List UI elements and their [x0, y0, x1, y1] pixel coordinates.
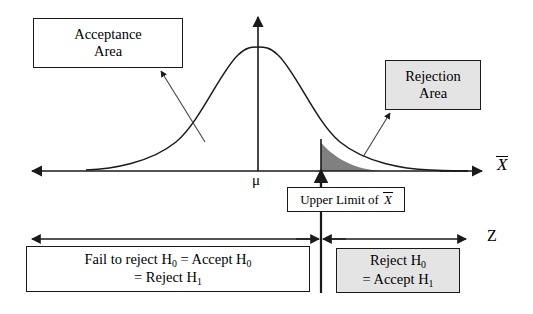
- upper-limit-callout: Upper Limit of X: [287, 187, 405, 212]
- reject-h0-line1: Reject H0: [370, 252, 426, 270]
- rejection-area-callout: Rejection Area: [385, 60, 481, 110]
- fail-to-reject-line1: Fail to reject H0 = Accept H0: [84, 251, 251, 269]
- fail-to-reject-line2: = Reject H1: [134, 269, 202, 287]
- fail-to-reject-text-c: = Reject H: [134, 269, 197, 285]
- rejection-area-line1: Rejection: [405, 68, 461, 85]
- acceptance-area-line1: Acceptance: [74, 26, 142, 43]
- fail-to-reject-text-b: = Accept H: [177, 251, 247, 267]
- rejection-area-line2: Area: [419, 85, 447, 102]
- fail-to-reject-text-a: Fail to reject H: [84, 251, 171, 267]
- z-axis-label: Z: [487, 227, 497, 245]
- fail-to-reject-h0-box: Fail to reject H0 = Accept H0 = Reject H…: [26, 246, 310, 292]
- upper-limit-xbar-symbol: X: [384, 192, 392, 207]
- reject-h0-text-b: = Accept H: [362, 271, 428, 287]
- reject-h0-sub-a: 0: [421, 259, 426, 270]
- reject-h0-line2: = Accept H1: [362, 271, 433, 289]
- x-axis-label-symbol: X: [497, 155, 507, 175]
- acceptance-area-callout: Acceptance Area: [33, 18, 183, 68]
- acceptance-leader-line: [161, 71, 205, 142]
- hypothesis-test-diagram: Acceptance Area Rejection Area Upper Lim…: [0, 0, 533, 314]
- reject-h0-sub-b: 1: [429, 277, 434, 288]
- rejection-leader-line: [363, 113, 390, 157]
- reject-h0-box: Reject H0 = Accept H1: [336, 248, 460, 293]
- fail-to-reject-sub-b: 0: [247, 257, 252, 268]
- acceptance-area-line2: Area: [94, 43, 122, 60]
- fail-to-reject-sub-c: 1: [197, 276, 202, 287]
- upper-limit-text: Upper Limit of: [300, 192, 379, 207]
- reject-h0-text-a: Reject H: [370, 252, 421, 268]
- x-axis-label: X: [497, 155, 507, 175]
- mean-label: μ: [252, 172, 260, 189]
